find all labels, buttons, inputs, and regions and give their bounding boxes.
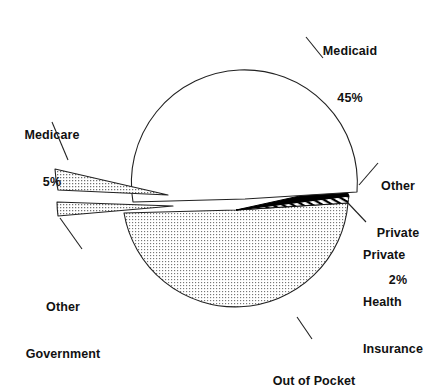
slice-label-medicaid: Medicaid 45% [302, 12, 398, 138]
slice-label-medicare-name: Medicare [5, 128, 99, 144]
slice-label-medicaid-value: 45% [302, 91, 398, 107]
slice-label-other-government-name2: Government [8, 347, 118, 363]
slice-label-private-health-insurance-name2: Health [363, 295, 439, 311]
leader-line-out-of-pocket [297, 317, 312, 339]
pie-slice-out-of-pocket [124, 203, 348, 307]
slice-label-private-health-insurance-name3: Insurance [363, 342, 439, 358]
slice-label-private-health-insurance: Private Health Insurance 1% [363, 216, 439, 387]
slice-label-out-of-pocket: Out of Pocket 45% [262, 342, 366, 387]
slice-label-medicaid-name: Medicaid [302, 44, 398, 60]
slice-label-other-government-name1: Other [8, 300, 118, 316]
slice-label-other-private-name1: Other [362, 179, 434, 195]
slice-label-medicare: Medicare 5% [5, 96, 99, 222]
leader-line-other-government [60, 218, 82, 249]
slice-label-medicare-value: 5% [5, 175, 99, 191]
slice-label-private-health-insurance-name1: Private [363, 248, 439, 264]
pie-chart-figure: Medicaid 45% Medicare 5% Other Governmen… [0, 0, 439, 387]
slice-label-other-government: Other Government 2% [8, 268, 118, 387]
slice-label-out-of-pocket-name: Out of Pocket [262, 374, 366, 387]
